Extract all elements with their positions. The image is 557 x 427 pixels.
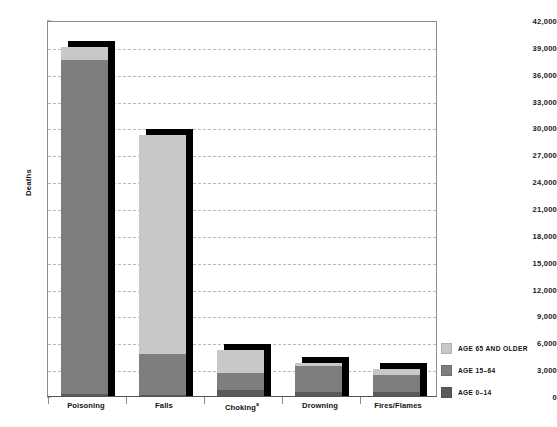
bar-stack[interactable] [295, 363, 342, 396]
bar-segment[interactable] [217, 350, 264, 372]
bar-segment[interactable] [217, 390, 264, 396]
y-axis-tick-label: 30,000 [513, 124, 557, 133]
footnote-marker: a [256, 401, 259, 407]
bar-segment[interactable] [295, 366, 342, 391]
bar-segment[interactable] [61, 394, 108, 396]
bar-segment[interactable] [373, 392, 420, 396]
y-axis-tick-label: 12,000 [513, 285, 557, 294]
bar-segment[interactable] [139, 354, 186, 395]
legend-label: AGE 65 AND OLDER [458, 345, 528, 352]
x-axis-label-poisoning: Poisoning [47, 401, 125, 410]
y-axis-tick-label: 42,000 [513, 17, 557, 26]
bar-segment[interactable] [295, 392, 342, 396]
bar-segment[interactable] [61, 47, 108, 60]
y-axis-tick-label: 39,000 [513, 43, 557, 52]
y-axis-tick-label: 33,000 [513, 97, 557, 106]
bar-segment[interactable] [217, 373, 264, 390]
y-axis-tick-label: 9,000 [513, 312, 557, 321]
y-axis-tick-label: 15,000 [513, 258, 557, 267]
bar-segment[interactable] [61, 60, 108, 394]
bar-stack[interactable] [139, 135, 186, 396]
legend-swatch [441, 387, 452, 398]
bar-stack[interactable] [61, 47, 108, 396]
plot-area [47, 21, 437, 397]
x-axis-label-falls: Falls [125, 401, 203, 410]
bar-stack[interactable] [373, 369, 420, 396]
legend-item[interactable]: AGE 65 AND OLDER [441, 340, 528, 357]
legend-item[interactable]: AGE 15–64 [441, 362, 528, 379]
x-axis-label-choking: Chokinga [203, 401, 281, 412]
bar-segment[interactable] [373, 375, 420, 392]
x-axis-label-drowning: Drowning [281, 401, 359, 410]
x-axis-label-fires-flames: Fires/Flames [359, 401, 437, 410]
legend-swatch [441, 365, 452, 376]
y-axis-title: Deaths [24, 153, 33, 213]
y-axis-tick-label: 36,000 [513, 70, 557, 79]
bar-segment[interactable] [139, 395, 186, 396]
y-axis-tick-label: 18,000 [513, 231, 557, 240]
chart-figure: Deaths 42,00039,00036,00033,00030,00027,… [0, 0, 557, 427]
legend-item[interactable]: AGE 0–14 [441, 384, 528, 401]
bar-segment[interactable] [139, 135, 186, 354]
chart-legend: AGE 65 AND OLDERAGE 15–64AGE 0–14 [441, 340, 528, 406]
y-axis-tick-label: 24,000 [513, 178, 557, 187]
legend-label: AGE 15–64 [458, 367, 496, 374]
y-axis-tick-label: 21,000 [513, 205, 557, 214]
legend-swatch [441, 343, 452, 354]
y-axis-tick-label: 27,000 [513, 151, 557, 160]
bar-stack[interactable] [217, 350, 264, 396]
legend-label: AGE 0–14 [458, 389, 492, 396]
